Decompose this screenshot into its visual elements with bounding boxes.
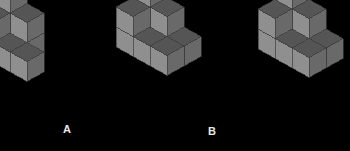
figure-label-b: B (208, 126, 216, 137)
figure-label-layer: AB (0, 0, 350, 151)
cube-figures-canvas: AB (0, 0, 350, 151)
figure-label-a: A (63, 124, 71, 135)
